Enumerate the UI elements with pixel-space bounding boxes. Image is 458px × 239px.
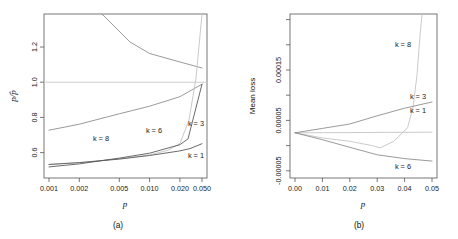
panel-a-curve-k1-upper — [44, 8, 202, 68]
panel-a-xtick-2: 0.005 — [110, 184, 128, 193]
panel-a-ytick-2: 1.0 — [30, 77, 39, 87]
panel-a-series-label-k1: k = 1 — [188, 151, 204, 160]
panel-a-series-label-k8: k = 8 — [93, 134, 109, 143]
panel-b-x-axis-title: p — [360, 199, 366, 209]
panel-a-plot-frame — [44, 14, 207, 178]
panel-b-y-ticks — [286, 20, 290, 171]
panel-b-series-label-k8: k = 8 — [395, 40, 411, 49]
panel-a-curve-k1-lower — [49, 144, 202, 165]
panel-b-caption: (b) — [354, 220, 364, 230]
panel-a-x-ticks — [49, 178, 202, 182]
panel-a-curve-k3 — [49, 14, 202, 164]
panel-a-ytick-3: 1.2 — [30, 42, 39, 52]
panel-a-caption: (a) — [113, 220, 123, 230]
panel-a-series-label-k6: k = 6 — [146, 126, 162, 135]
panel-a-y-axis-title: p/p̂ — [8, 90, 18, 103]
panel-b-series-label-k3: k = 3 — [410, 92, 426, 101]
panel-b-series-label-k1: k = 1 — [410, 106, 426, 115]
panel-b-xtick-5: 0.05 — [425, 184, 439, 193]
figure-container: 0.6 0.8 1.0 1.2 p/p̂ 0.001 0.002 0.005 0… — [0, 0, 458, 239]
panel-a-xtick-3: 0.010 — [141, 184, 159, 193]
panel-a-curve-k8 — [49, 84, 202, 130]
panel-b-curve-k1 — [295, 132, 432, 133]
panel-a-ytick-1: 0.8 — [30, 112, 39, 122]
panel-a-svg: 0.6 0.8 1.0 1.2 p/p̂ 0.001 0.002 0.005 0… — [0, 0, 229, 239]
panel-b-series-label-k6: k = 6 — [395, 162, 411, 171]
panel-b-y-axis-title: Mean loss — [248, 78, 257, 114]
panel-a-xtick-5: 0.050 — [193, 184, 211, 193]
panel-a-xtick-1: 0.002 — [70, 184, 88, 193]
panel-a-series-label-k3: k = 3 — [188, 119, 204, 128]
panel-b: -0.00005 0.00005 0.00015 Mean loss 0.00 … — [229, 0, 458, 239]
panel-b-xtick-3: 0.03 — [370, 184, 384, 193]
panel-a-ytick-0: 0.6 — [30, 148, 39, 158]
panel-b-curve-k8 — [295, 14, 422, 148]
panel-b-xtick-2: 0.02 — [343, 184, 357, 193]
panel-b-xtick-1: 0.01 — [315, 184, 329, 193]
panel-a-xtick-4: 0.020 — [171, 184, 189, 193]
panel-b-ytick-0: -0.00005 — [274, 157, 283, 185]
panel-b-ytick-2: 0.00015 — [274, 57, 283, 83]
panel-b-xtick-0: 0.00 — [288, 184, 302, 193]
panel-a-x-axis-title: p — [122, 199, 128, 209]
panel-b-xtick-4: 0.04 — [398, 184, 412, 193]
panel-b-x-ticks — [295, 178, 432, 182]
panel-a-y-ticks — [40, 47, 44, 153]
panel-b-svg: -0.00005 0.00005 0.00015 Mean loss 0.00 … — [229, 0, 458, 239]
panel-b-ytick-1: 0.00005 — [274, 107, 283, 133]
panel-a: 0.6 0.8 1.0 1.2 p/p̂ 0.001 0.002 0.005 0… — [0, 0, 229, 239]
panel-a-xtick-0: 0.001 — [40, 184, 58, 193]
